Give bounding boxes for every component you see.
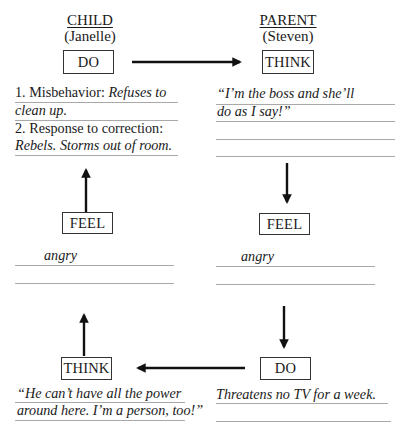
child-do-line-4: Rebels. Storms out of room. <box>15 137 172 154</box>
parent-think-box: THINK <box>262 50 314 74</box>
child-do-line-1: 1. Misbehavior: Refuses to <box>15 84 166 101</box>
parent-feel-line-1: angry <box>241 248 274 265</box>
parent-do-box: DO <box>260 357 311 380</box>
child-feel-line-1: angry <box>44 247 77 264</box>
child-think-line-1: “He can’t have all the power <box>17 385 181 402</box>
child-do-line-2: clean up. <box>15 102 67 119</box>
parent-title: PARENT <box>228 12 348 28</box>
child-name: (Janelle) <box>30 28 150 44</box>
parent-feel-rule-1 <box>216 266 375 267</box>
parent-feel-rule-2 <box>216 284 375 285</box>
child-think-box: THINK <box>61 357 112 380</box>
parent-think-rule-2 <box>216 121 395 122</box>
parent-do-line-1: Threatens no TV for a week. <box>216 386 376 403</box>
parent-think-line-2: do as I say!” <box>217 103 291 120</box>
child-feel-box: FEEL <box>62 212 113 234</box>
parent-do-rule-2 <box>216 421 391 422</box>
child-do-line-3: 2. Response to correction: <box>15 120 163 137</box>
child-feel-rule-2 <box>15 283 174 284</box>
parent-do-rule-1 <box>216 403 388 404</box>
child-think-line-2: around here. I’m a person, too!” <box>17 402 203 419</box>
parent-name: (Steven) <box>228 28 348 44</box>
child-header: CHILD (Janelle) <box>30 12 150 44</box>
child-do-rule-3 <box>15 155 178 156</box>
child-title: CHILD <box>30 12 150 28</box>
parent-feel-box: FEEL <box>259 213 310 235</box>
child-think-rule-2 <box>15 420 185 421</box>
parent-header: PARENT (Steven) <box>228 12 348 44</box>
parent-think-line-1: “I’m the boss and she’ll <box>217 85 354 102</box>
parent-think-rule-4 <box>216 156 395 157</box>
child-do-box: DO <box>63 50 114 74</box>
parent-think-rule-3 <box>216 139 395 140</box>
child-feel-rule-1 <box>15 265 174 266</box>
